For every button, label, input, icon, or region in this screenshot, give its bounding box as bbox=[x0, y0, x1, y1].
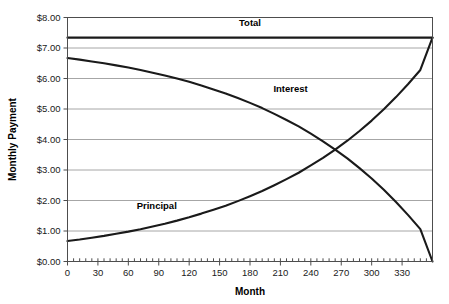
x-axis-title: Month bbox=[235, 286, 265, 297]
x-tick-label: 330 bbox=[394, 267, 410, 278]
y-tick-label: $3.00 bbox=[37, 164, 61, 175]
chart-container: $0.00$1.00$2.00$3.00$4.00$5.00$6.00$7.00… bbox=[0, 0, 449, 304]
y-tick-label: $8.00 bbox=[37, 12, 61, 23]
x-tick-label: 210 bbox=[272, 267, 288, 278]
y-tick-label: $1.00 bbox=[37, 225, 61, 236]
y-tick-label: $5.00 bbox=[37, 103, 61, 114]
x-tick-label: 120 bbox=[181, 267, 197, 278]
amortization-line-chart: $0.00$1.00$2.00$3.00$4.00$5.00$6.00$7.00… bbox=[0, 0, 449, 304]
x-tick-label: 150 bbox=[212, 267, 228, 278]
series-label-principal: Principal bbox=[137, 200, 177, 211]
x-tick-label: 300 bbox=[364, 267, 380, 278]
y-tick-label: $2.00 bbox=[37, 195, 61, 206]
x-tick-label: 180 bbox=[242, 267, 258, 278]
y-tick-label: $0.00 bbox=[37, 256, 61, 267]
x-tick-label: 0 bbox=[65, 267, 70, 278]
series-label-total: Total bbox=[239, 17, 261, 28]
y-tick-label: $6.00 bbox=[37, 73, 61, 84]
y-tick-label: $4.00 bbox=[37, 134, 61, 145]
y-axis-title: Monthly Payment bbox=[7, 97, 18, 180]
x-tick-label: 270 bbox=[333, 267, 349, 278]
y-axis-tick-labels: $0.00$1.00$2.00$3.00$4.00$5.00$6.00$7.00… bbox=[37, 12, 61, 267]
x-tick-label: 90 bbox=[153, 267, 164, 278]
series-label-interest: Interest bbox=[273, 83, 308, 94]
x-tick-label: 60 bbox=[123, 267, 134, 278]
x-tick-label: 30 bbox=[93, 267, 104, 278]
y-tick-label: $7.00 bbox=[37, 42, 61, 53]
x-tick-label: 240 bbox=[303, 267, 319, 278]
